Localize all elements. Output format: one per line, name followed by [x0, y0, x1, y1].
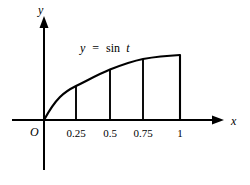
- sine-curve-figure: y x O 0.25 0.5 0.75 1 y = sin t: [0, 0, 250, 185]
- x-tick-label-1: 1: [177, 127, 183, 139]
- x-tick-label-025: 0.25: [66, 127, 86, 139]
- x-axis-arrowhead: [212, 116, 224, 125]
- x-tick-label-05: 0.5: [103, 127, 117, 139]
- plot-canvas: y x O 0.25 0.5 0.75 1 y = sin t: [0, 0, 250, 185]
- origin-label: O: [30, 125, 39, 139]
- y-axis-label: y: [37, 3, 44, 17]
- ordinate-lines: [76, 55, 180, 120]
- x-axis-label: x: [230, 114, 237, 128]
- y-axis-arrowhead: [40, 16, 49, 28]
- equation-argument: t: [126, 41, 130, 55]
- x-tick-label-075: 0.75: [133, 127, 153, 139]
- equation-equals: =: [92, 41, 99, 55]
- curve-equation-label: y = sin t: [79, 41, 130, 55]
- equation-lhs: y: [79, 41, 86, 55]
- equation-function: sin: [106, 41, 120, 55]
- x-tick-labels: 0.25 0.5 0.75 1: [66, 127, 182, 139]
- sine-curve: [44, 55, 180, 120]
- y-axis: [40, 16, 49, 170]
